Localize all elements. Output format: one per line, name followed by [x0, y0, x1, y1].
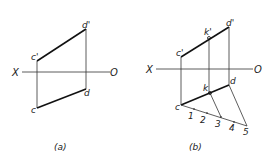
label-d-prime-b: d' [226, 18, 234, 28]
label-d-a: d [84, 88, 90, 98]
segment-c-prime-d-prime-a [37, 29, 86, 61]
division-label-3: 3 [215, 119, 221, 129]
diagram-canvas: X O c' d' c d (a) X O c' d' k' c d k 1 2… [0, 0, 273, 158]
caption-b: (b) [189, 142, 202, 152]
figure-a: X O c' d' c d (a) [11, 20, 118, 152]
tick-3 [220, 116, 222, 118]
tick-1 [193, 108, 195, 110]
label-o-a: O [110, 67, 118, 78]
label-k-b: k [203, 83, 209, 93]
label-c-b: c [175, 102, 180, 112]
label-c-a: c [31, 105, 36, 115]
division-label-4: 4 [229, 123, 235, 133]
label-c-prime-a: c' [31, 52, 38, 62]
figure-b: X O c' d' k' c d k 1 2 3 4 5 (b) [145, 18, 262, 152]
division-label-1: 1 [188, 111, 194, 121]
label-d-prime-a: d' [82, 20, 90, 30]
construction-line-k-3 [210, 93, 221, 117]
caption-a: (a) [54, 142, 67, 152]
segment-c-d-a [37, 89, 86, 108]
label-o-b: O [254, 64, 262, 75]
construction-line-d-5 [229, 85, 247, 126]
label-x-a: X [11, 67, 20, 78]
label-c-prime-b: c' [176, 48, 183, 58]
label-d-b: d [230, 76, 236, 86]
tick-2 [206, 112, 208, 114]
division-label-5: 5 [243, 127, 249, 137]
label-x-b: X [145, 64, 154, 75]
label-k-prime-b: k' [204, 27, 212, 37]
division-label-2: 2 [200, 115, 206, 125]
